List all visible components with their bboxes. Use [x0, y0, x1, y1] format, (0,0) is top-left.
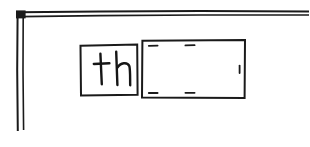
frame-left-outer-line — [17, 13, 18, 132]
hand-drawn-sketch — [0, 0, 309, 147]
letter-t-crossbar — [94, 63, 110, 64]
frame-corner-joint — [16, 10, 26, 18]
sketch-canvas: th th hand-drawn black ink sketch on whi… — [0, 0, 309, 147]
paper-background — [0, 0, 309, 147]
letter-t-stem — [100, 54, 101, 85]
frame-top-outer-line — [19, 11, 310, 12]
frame-left-inner-line — [23, 17, 24, 130]
